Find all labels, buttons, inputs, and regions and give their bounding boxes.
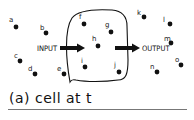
caption-underline: [8, 109, 187, 110]
node-label: l: [163, 16, 165, 24]
node-label: a: [9, 16, 13, 24]
node-dot: [82, 22, 87, 27]
node-label: b: [40, 24, 45, 32]
figure-caption: (a) cell at t: [9, 90, 92, 106]
node-k: k: [137, 9, 146, 19]
node-o: o: [175, 56, 183, 67]
node-h: h: [92, 35, 100, 48]
input-label: INPUT: [37, 44, 58, 53]
node-label: f: [79, 13, 82, 21]
node-dot: [96, 44, 101, 49]
node-label: o: [175, 56, 179, 64]
node-dot: [44, 31, 49, 36]
node-dot: [18, 59, 23, 64]
node-dot: [168, 22, 173, 27]
node-e: e: [57, 65, 66, 76]
node-f: f: [79, 13, 86, 26]
node-label: k: [137, 9, 142, 17]
node-l: l: [163, 16, 172, 26]
node-a: a: [9, 16, 18, 29]
node-label: h: [92, 35, 96, 43]
node-j: j: [113, 61, 121, 74]
node-b: b: [40, 24, 48, 35]
node-label: g: [105, 21, 109, 29]
output-label: OUTPUT: [142, 44, 170, 53]
input-arrow: [60, 44, 85, 53]
node-dot: [117, 70, 122, 75]
node-label: n: [150, 63, 154, 71]
node-dot: [14, 25, 19, 30]
node-dot: [142, 15, 147, 20]
node-c: c: [14, 52, 22, 63]
node-i: i: [81, 57, 87, 69]
node-dot: [33, 72, 38, 77]
node-dot: [62, 72, 67, 77]
node-layer: abcdefghijklmno: [9, 9, 183, 76]
node-g: g: [105, 21, 113, 34]
node-dot: [155, 70, 160, 75]
node-label: j: [113, 61, 116, 69]
node-label: d: [28, 65, 32, 73]
node-dot: [83, 65, 88, 70]
node-n: n: [150, 63, 159, 74]
node-label: e: [57, 65, 61, 73]
node-d: d: [28, 65, 37, 76]
node-dot: [179, 63, 184, 68]
node-dot: [109, 30, 114, 35]
node-label: c: [14, 52, 18, 60]
node-label: i: [81, 57, 83, 65]
node-dot: [169, 41, 174, 46]
